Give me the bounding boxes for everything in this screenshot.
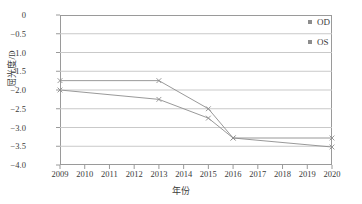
legend-label-od: OD [317,18,330,27]
x-tick-label: 2020 [318,170,346,179]
x-axis-title: 年份 [0,184,362,197]
legend-item-od[interactable]: OD [304,12,356,32]
legend: OD OS [304,12,356,52]
legend-swatch-od [308,20,312,24]
y-tick-label: −3.5 [0,142,26,151]
y-tick-label: −4.0 [0,161,26,170]
chart-root: 0−0.5−1.0−1.5−2.0−2.5−3.0−3.5−4.0 200920… [0,0,362,204]
y-tick-label: −3.0 [0,124,26,133]
legend-item-os[interactable]: OS [304,32,356,52]
legend-swatch-os [308,40,312,44]
legend-label-os: OS [317,38,329,47]
y-axis-title: 屈光度/D [5,17,18,121]
plot-area [60,15,332,165]
